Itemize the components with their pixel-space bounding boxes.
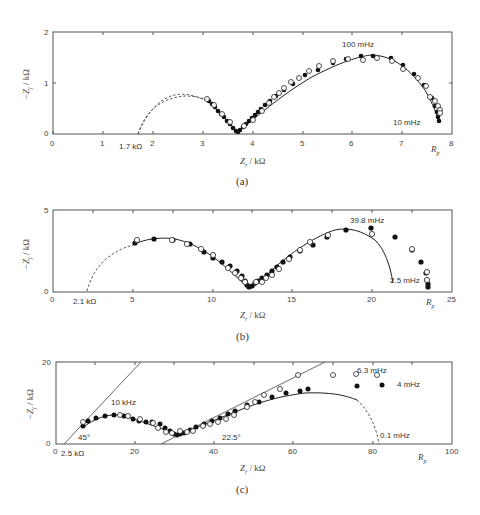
ytick-labels-a: 012 <box>44 28 49 138</box>
filled-points-c <box>81 383 385 438</box>
ytick-labels-c: 020 <box>42 358 51 448</box>
dashed-arc-b <box>87 245 133 291</box>
svg-text:25: 25 <box>447 295 456 304</box>
svg-text:4: 4 <box>250 139 255 148</box>
annotation-45deg: 45° <box>78 433 90 442</box>
svg-text:60: 60 <box>288 447 297 456</box>
ylabel-a: −Zj / kΩ <box>21 69 33 100</box>
svg-text:20: 20 <box>367 295 376 304</box>
svg-text:1: 1 <box>100 139 105 148</box>
dashed-arc-a2 <box>138 96 207 134</box>
annotation-10khz: 10 kHz <box>111 398 136 407</box>
svg-text:80: 80 <box>368 447 377 456</box>
svg-text:20: 20 <box>130 447 139 456</box>
annotation-6-3mhz: 6.3 mHz <box>357 366 387 375</box>
svg-text:7: 7 <box>399 139 404 148</box>
annotation-22-5deg: 22.5° <box>222 433 241 442</box>
rp-label-b: Rp <box>425 297 435 309</box>
svg-text:100: 100 <box>445 447 459 456</box>
svg-text:0: 0 <box>50 139 55 148</box>
svg-text:0: 0 <box>44 129 49 138</box>
annotation-0-1mhz: 0.1 mHz <box>380 431 410 440</box>
svg-text:15: 15 <box>287 295 296 304</box>
svg-text:0: 0 <box>50 295 55 304</box>
svg-text:2: 2 <box>44 28 49 37</box>
caption-c: (c) <box>236 483 249 496</box>
svg-text:0: 0 <box>44 287 49 296</box>
annotation-2-1-kohm: 2.1 kΩ <box>73 297 96 306</box>
xtick-labels-b: 0510152025 <box>50 295 456 304</box>
annotation-4mhz: 4 mHz <box>397 380 420 389</box>
svg-text:10: 10 <box>207 295 216 304</box>
svg-text:3: 3 <box>200 139 205 148</box>
rp-label-a: Rp <box>430 144 440 156</box>
svg-text:5: 5 <box>130 295 135 304</box>
xtick-labels-a: 012345678 <box>50 139 454 148</box>
svg-text:0: 0 <box>53 447 58 456</box>
svg-text:1: 1 <box>44 79 49 88</box>
dashed-extrapolation-c <box>357 400 379 444</box>
svg-text:20: 20 <box>42 358 51 367</box>
svg-text:5: 5 <box>300 139 305 148</box>
caption-b: (b) <box>236 330 249 343</box>
svg-text:5: 5 <box>44 206 49 215</box>
svg-text:40: 40 <box>209 447 218 456</box>
annotation-2-5-kohm: 2.5 kΩ <box>61 449 84 458</box>
ytick-labels-b: 05 <box>44 206 49 296</box>
annotation-1-7-kohm: 1.7 kΩ <box>119 142 142 151</box>
annotation-100mhz: 100 mHz <box>342 40 374 49</box>
annotation-2-5mhz: 2.5 mHz <box>390 276 420 285</box>
xlabel-b: Zr / kΩ <box>240 310 266 322</box>
svg-text:2: 2 <box>150 139 155 148</box>
svg-text:0: 0 <box>46 439 51 448</box>
svg-text:6: 6 <box>349 139 354 148</box>
rp-label-c: Rp <box>417 452 427 464</box>
caption-a: (a) <box>236 175 249 188</box>
panel-b: 0510152025 05 39.8 mHz 2.5 mHz 2.1 kΩ Rp… <box>21 206 456 343</box>
xlabel-a: Zr / kΩ <box>240 156 266 168</box>
xtick-labels-c: 020406080100 <box>53 447 459 456</box>
ylabel-b: −Zj / kΩ <box>21 239 33 270</box>
annotation-10mhz: 10 mHz <box>393 118 421 127</box>
ylabel-c: −Zj / kΩ <box>25 389 37 420</box>
xlabel-c: Zr / kΩ <box>240 463 266 475</box>
panel-c: 020406080100 020 10 kHz 45° 22.5° 6.3 mH… <box>25 358 459 496</box>
panel-a: 012345678 012 100 mHz 10 mHz 1.7 kΩ Rp Z… <box>21 28 454 188</box>
annotation-39-8mhz: 39.8 mHz <box>350 216 384 225</box>
svg-text:8: 8 <box>449 139 454 148</box>
figure: 012345678 012 100 mHz 10 mHz 1.7 kΩ Rp Z… <box>0 0 480 515</box>
